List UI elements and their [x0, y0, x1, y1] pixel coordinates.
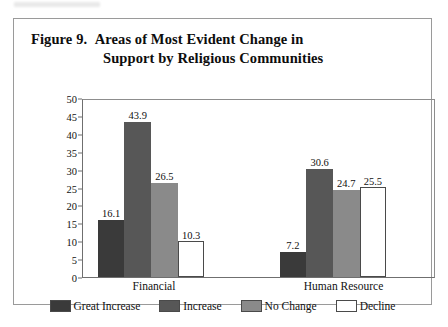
- bar-value-label: 7.2: [286, 240, 299, 251]
- bar-value-label: 10.3: [182, 230, 200, 241]
- bar: 24.7: [333, 190, 360, 277]
- y-axis-tick-label: 30: [67, 165, 83, 176]
- bar-value-label: 30.6: [310, 157, 328, 168]
- bar-value-label: 16.1: [102, 208, 120, 219]
- figure-container: Figure 9. Areas of Most Evident Change i…: [13, 18, 432, 305]
- y-axis-tick-label: 50: [67, 94, 83, 105]
- y-axis-tick-label: 10: [67, 237, 83, 248]
- chart-plot-area: 05101520253035404550 16.143.926.510.37.2…: [69, 99, 435, 278]
- bar: 30.6: [306, 169, 333, 277]
- bar: 25.5: [360, 187, 387, 277]
- legend-label: Great Increase: [74, 300, 141, 312]
- y-axis-tick-label: 45: [67, 111, 83, 122]
- bar-value-label: 26.5: [155, 171, 173, 182]
- figure-title-line1: Areas of Most Evident Change in: [95, 31, 304, 47]
- y-axis-tick-label: 40: [67, 129, 83, 140]
- category-label: Human Resource: [304, 280, 384, 292]
- legend-item: Great Increase: [50, 300, 141, 312]
- bar-value-label: 43.9: [129, 110, 147, 121]
- legend-swatch: [159, 300, 180, 312]
- legend-swatch: [241, 300, 262, 312]
- category-label: Financial: [133, 280, 176, 292]
- legend-swatch: [336, 300, 357, 312]
- y-axis-tick-label: 35: [67, 147, 83, 158]
- legend-label: No Change: [265, 300, 317, 312]
- legend-item: No Change: [241, 300, 317, 312]
- legend-item: Decline: [336, 300, 396, 312]
- figure-title-line2: Support by Religious Communities: [31, 49, 421, 68]
- y-axis-tick-label: 5: [72, 255, 82, 266]
- y-axis-tick-label: 0: [72, 273, 82, 284]
- bars-layer: 16.143.926.510.37.230.624.725.5: [83, 100, 434, 277]
- y-axis-tick-label: 20: [67, 201, 83, 212]
- figure-title: Figure 9. Areas of Most Evident Change i…: [31, 30, 421, 68]
- scan-artifact-top: [14, 2, 100, 7]
- bar: 43.9: [124, 122, 151, 277]
- chart-legend: Great IncreaseIncreaseNo ChangeDecline: [14, 300, 431, 312]
- bar: 10.3: [178, 241, 205, 277]
- bar-value-label: 25.5: [364, 176, 382, 187]
- legend-item: Increase: [159, 300, 221, 312]
- legend-label: Increase: [183, 300, 221, 312]
- y-axis-tick-label: 15: [67, 219, 83, 230]
- y-axis-tick-label: 25: [67, 183, 83, 194]
- bar: 16.1: [98, 220, 125, 277]
- legend-label: Decline: [360, 300, 396, 312]
- bar: 26.5: [151, 183, 178, 277]
- legend-swatch: [50, 300, 71, 312]
- bar-value-label: 24.7: [337, 178, 355, 189]
- bar: 7.2: [280, 252, 307, 277]
- figure-number: Figure 9.: [31, 31, 87, 47]
